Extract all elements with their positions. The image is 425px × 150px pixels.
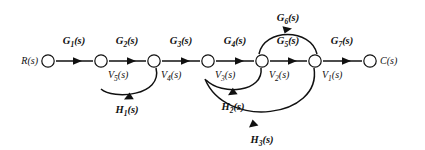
node-label-c: C(s) [380, 55, 398, 67]
signal-flow-graph-diagram: G1(s) G2(s) G3(s) G4(s) G5(s) G7(s) G6(s… [0, 0, 425, 150]
forward-branch-g2 [109, 57, 146, 65]
gain-label-g6: G6(s) [277, 12, 299, 26]
node-v1[interactable] [309, 55, 321, 67]
node-v4[interactable] [148, 55, 160, 67]
arrowhead-g6 [283, 26, 293, 33]
node-v3[interactable] [202, 55, 214, 67]
gain-label-g3: G3(s) [170, 35, 192, 49]
arrowhead-g2 [127, 57, 136, 65]
forward-branch-g4 [216, 57, 254, 65]
arrowhead-g3 [181, 57, 190, 65]
node-label-v5: V5(s) [108, 69, 129, 83]
gain-label-g7: G7(s) [331, 35, 353, 49]
gain-label-g4: G4(s) [224, 35, 246, 49]
forward-branch-g3 [162, 57, 200, 65]
node-c[interactable] [364, 55, 376, 67]
gain-label-g2: G2(s) [116, 35, 138, 49]
node-v5[interactable] [95, 55, 107, 67]
arrowhead-h3 [249, 119, 258, 127]
node-r[interactable] [42, 55, 54, 67]
diagram-svg: G1(s) G2(s) G3(s) G4(s) G5(s) G7(s) G6(s… [0, 0, 425, 150]
forward-branch-g7 [323, 57, 362, 65]
node-label-v2: V2(s) [269, 69, 290, 83]
node-v2[interactable] [256, 55, 268, 67]
gain-label-g1: G1(s) [63, 35, 85, 49]
forward-branch-g1 [56, 57, 93, 65]
gain-label-h3: H3(s) [249, 134, 273, 148]
forward-branch-g5 [270, 57, 307, 65]
arrowhead-g5 [288, 57, 297, 65]
node-label-v1: V1(s) [322, 69, 343, 83]
gain-label-h1: H1(s) [114, 104, 138, 118]
gain-label-g5: G5(s) [277, 35, 299, 49]
arrowhead-g7 [342, 57, 351, 65]
gain-label-h2: H2(s) [220, 101, 244, 115]
node-label-v3: V3(s) [215, 69, 236, 83]
arrowhead-g1 [73, 57, 82, 65]
arrowhead-g4 [235, 57, 244, 65]
node-label-r: R(s) [20, 55, 38, 67]
node-label-v4: V4(s) [161, 69, 182, 83]
